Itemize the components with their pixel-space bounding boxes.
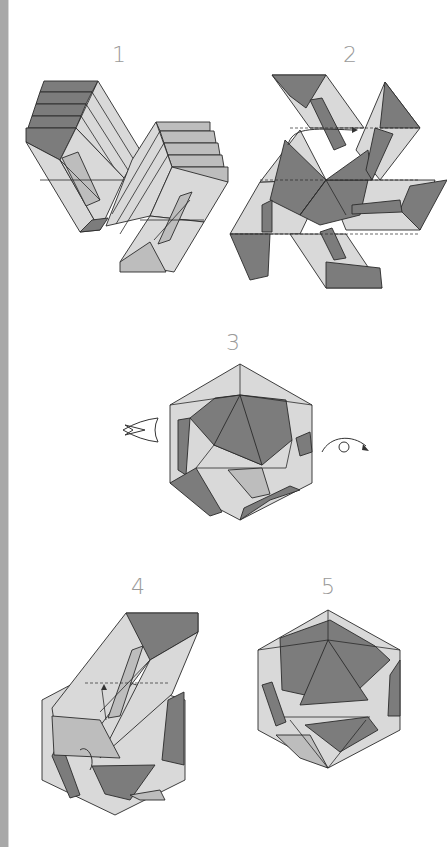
step-2-diagram — [0, 0, 447, 847]
side-decor-strip — [0, 0, 8, 847]
side-decor-strip-edge — [8, 0, 9, 847]
step-1-right-unit — [106, 122, 228, 272]
step-1-diagram — [0, 0, 447, 847]
step-number-2: 2 — [343, 42, 357, 67]
step-2-star-assembly — [230, 75, 447, 288]
step-number-3: 3 — [226, 330, 240, 355]
view-arrow-icon — [123, 418, 158, 442]
step-1-left-unit — [26, 81, 140, 232]
step-5-finished-icosahedron — [258, 610, 400, 768]
step-4-insert-final-unit — [42, 613, 198, 815]
step-number-5: 5 — [321, 574, 335, 599]
step-3-partial-icosahedron — [170, 364, 312, 520]
step-4-diagram — [0, 0, 447, 847]
step-3-diagram — [0, 0, 447, 847]
step-5-diagram — [0, 0, 447, 847]
step-number-1: 1 — [112, 42, 126, 67]
turn-over-arrow-icon — [322, 438, 369, 452]
step-number-4: 4 — [131, 574, 145, 599]
